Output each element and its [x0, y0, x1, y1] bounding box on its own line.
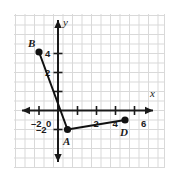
y-tick-label-neg2: –2: [36, 124, 47, 135]
y-axis-label: y: [62, 16, 68, 28]
y-tick-label-4: 4: [45, 48, 51, 59]
x-tick-label-4: 4: [113, 118, 119, 129]
coordinate-graph-svg: x y –2 0 2 4 6 –2 2 4 B A D: [0, 0, 175, 187]
x-tick-label-6: 6: [141, 118, 146, 129]
point-a: [64, 126, 71, 133]
x-tick-label-0: 0: [46, 118, 51, 129]
point-label-a: A: [62, 135, 70, 147]
point-b: [35, 48, 42, 55]
point-label-d: D: [119, 126, 128, 138]
coordinate-plane-figure: x y –2 0 2 4 6 –2 2 4 B A D: [0, 0, 175, 187]
point-label-b: B: [27, 37, 35, 49]
point-d: [121, 116, 128, 123]
x-axis-label: x: [149, 87, 155, 99]
